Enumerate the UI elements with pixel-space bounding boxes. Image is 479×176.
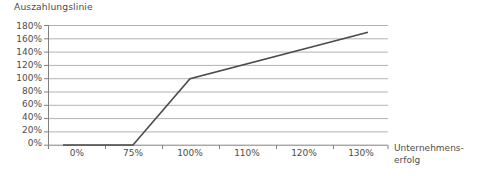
y-axis-ticks <box>44 26 48 146</box>
data-series-auszahlungslinie <box>63 32 368 145</box>
chart-figure: Auszahlungslinie 180% 160% 140% 120% 100… <box>0 0 479 176</box>
gridlines <box>48 26 388 132</box>
plot-area <box>0 0 479 176</box>
